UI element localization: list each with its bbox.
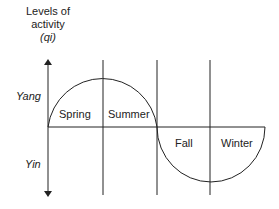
yang-label: Yang [16, 90, 41, 102]
season-summer: Summer [108, 108, 150, 120]
yin-yang-seasons-diagram [0, 0, 279, 209]
season-winter: Winter [221, 137, 253, 149]
yin-label: Yin [25, 158, 41, 170]
season-fall: Fall [175, 137, 193, 149]
season-spring: Spring [59, 108, 91, 120]
yin-arc [157, 127, 265, 182]
